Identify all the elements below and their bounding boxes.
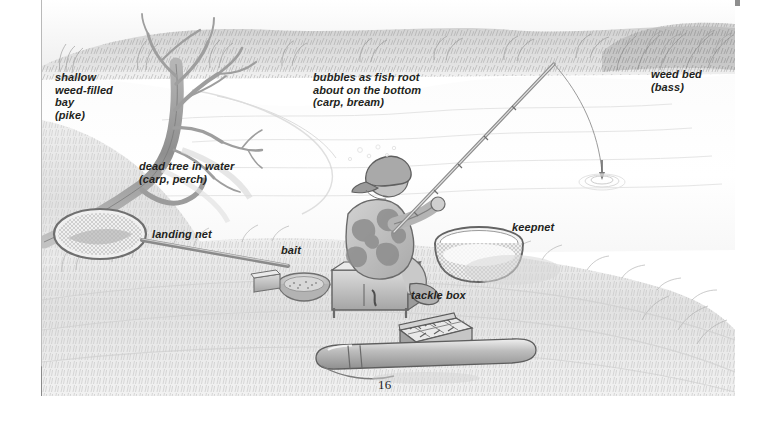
label-tackle-box: tackle box	[411, 289, 466, 302]
label-landing-net: landing net	[152, 228, 212, 241]
hand	[431, 197, 445, 211]
label-shallow-bay: shallow weed-filled bay (pike)	[55, 71, 113, 121]
label-weed-bed: weed bed (bass)	[651, 68, 702, 93]
fishing-scene-illustration	[42, 0, 735, 396]
illustration-page: shallow weed-filled bay (pike) dead tree…	[0, 0, 776, 437]
bait-box	[251, 270, 280, 292]
label-bubbles: bubbles as fish root about on the bottom…	[313, 71, 421, 109]
label-keepnet: keepnet	[512, 221, 554, 234]
label-dead-tree: dead tree in water (carp, perch)	[139, 160, 234, 185]
label-bait: bait	[281, 244, 301, 257]
page-number: 16	[378, 377, 392, 393]
